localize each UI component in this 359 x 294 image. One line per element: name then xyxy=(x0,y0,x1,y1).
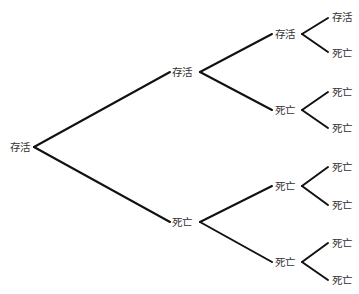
tree-branch xyxy=(200,34,272,72)
tree-nodes: 存活存活死亡存活死亡死亡死亡存活死亡死亡死亡死亡死亡死亡死亡 xyxy=(10,11,353,286)
tree-node-label: 死亡 xyxy=(332,274,352,286)
tree-node-label: 死亡 xyxy=(332,161,352,173)
tree-node-label: 死亡 xyxy=(275,104,295,116)
tree-branch xyxy=(34,72,170,147)
tree-node-label: 死亡 xyxy=(275,256,295,268)
tree-branch xyxy=(302,186,328,205)
tree-node-label: 存活 xyxy=(332,11,353,23)
tree-node-label: 死亡 xyxy=(332,86,352,98)
tree-diagram: 存活存活死亡存活死亡死亡死亡存活死亡死亡死亡死亡死亡死亡死亡 xyxy=(0,0,359,294)
tree-branch xyxy=(302,110,328,128)
tree-node-label: 死亡 xyxy=(275,180,295,192)
tree-node-label: 存活 xyxy=(275,28,296,40)
tree-branch xyxy=(302,243,328,262)
tree-node-label: 死亡 xyxy=(172,216,192,228)
tree-branch xyxy=(302,92,328,110)
tree-branch xyxy=(302,262,328,280)
tree-branch xyxy=(302,34,328,52)
tree-branch xyxy=(34,147,170,222)
tree-node-label: 存活 xyxy=(10,141,31,153)
tree-branch xyxy=(200,72,272,110)
tree-node-label: 死亡 xyxy=(332,199,352,211)
tree-node-label: 死亡 xyxy=(332,237,352,249)
tree-branch xyxy=(200,222,272,262)
tree-node-label: 死亡 xyxy=(332,122,352,134)
tree-branch xyxy=(302,18,328,34)
tree-node-label: 存活 xyxy=(172,66,193,78)
tree-branch xyxy=(200,186,272,222)
tree-branch xyxy=(302,167,328,186)
tree-node-label: 死亡 xyxy=(332,47,352,59)
tree-edges xyxy=(34,18,328,280)
